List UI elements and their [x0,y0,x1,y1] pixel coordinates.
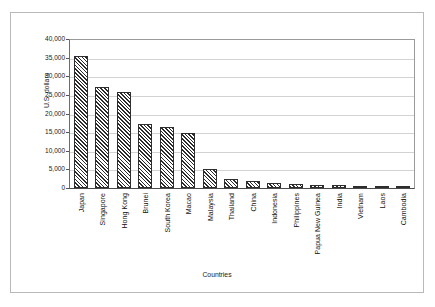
y-axis-tick-label: 5,000 [11,165,65,172]
x-axis-tick-label: Laos [378,193,385,208]
x-axis-label-slot: China [242,191,264,283]
y-axis-tick-label: 25,000 [11,91,65,98]
bar-slot [181,39,195,188]
y-axis-tick-label: 40,000 [11,35,65,42]
x-axis-label-slot: Papua New Guinea [307,191,329,283]
bar [138,124,152,188]
bar-series [70,39,414,188]
bar-slot [332,39,346,188]
x-axis-label-slot: Indonesia [264,191,286,283]
bar-slot [203,39,217,188]
bar-slot [138,39,152,188]
y-axis-tick-label: 15,000 [11,128,65,135]
x-axis-label-slot: Laos [371,191,393,283]
bar-slot [224,39,238,188]
x-axis-label-slot: South Korea [156,191,178,283]
bar [160,127,174,188]
x-axis-label-slot: India [328,191,350,283]
bar [353,186,367,188]
bar [224,179,238,188]
y-axis-tick-label: 30,000 [11,72,65,79]
bar [332,185,346,188]
x-axis-label-slot: Malaysia [199,191,221,283]
bar-slot [246,39,260,188]
y-axis-tick-label: 35,000 [11,54,65,61]
bar-slot [353,39,367,188]
x-axis-tick-label: China [249,193,256,212]
x-axis-label-slot: Thailand [221,191,243,283]
y-axis-title: U.S. dollars [43,46,50,136]
x-axis-label-slot: Singapore [92,191,114,283]
x-axis-tick-label: Macao [185,193,192,214]
y-axis-tick-label: 10,000 [11,147,65,154]
x-axis-label-slot: Vietnam [350,191,372,283]
x-axis-label-slot: Macao [178,191,200,283]
chart-frame: U.S. dollars 40,00035,00030,00025,00020,… [10,12,424,293]
x-axis-tick-label: India [335,193,342,208]
bar [310,185,324,188]
x-axis-tick-label: Philippines [292,193,299,227]
y-axis-tick-label: 0 [11,184,65,191]
x-axis-label-slot: Hong Kong [113,191,135,283]
bar [95,87,109,188]
bar-slot [289,39,303,188]
bar-slot [396,39,410,188]
bar-slot [267,39,281,188]
bar-slot [160,39,174,188]
x-axis-label-slot: Philippines [285,191,307,283]
bar [246,181,260,188]
bar-slot [74,39,88,188]
x-axis-label-slot: Brunei [135,191,157,283]
x-axis-tick-label: Brunei [142,193,149,214]
bar [267,183,281,188]
y-axis-tick-label: 20,000 [11,110,65,117]
bar-slot [310,39,324,188]
bar [74,56,88,188]
bar-slot [375,39,389,188]
x-axis-tick-label: Singapore [99,193,106,225]
x-axis-tick-label: Malaysia [206,193,213,221]
x-axis-tick-label: Hong Kong [120,193,127,228]
x-axis-tick-label: Papua New Guinea [314,193,321,255]
x-axis-tick-labels: JapanSingaporeHong KongBruneiSouth Korea… [70,191,414,283]
x-axis-tick-label: Cambodia [400,193,407,225]
x-axis-title: Countries [11,271,423,278]
bar [181,133,195,188]
x-axis-tick-label: Thailand [228,193,235,220]
x-axis-label-slot: Cambodia [393,191,415,283]
x-axis-label-slot: Japan [70,191,92,283]
x-axis-tick-label: South Korea [163,193,170,232]
bar [203,169,217,188]
x-axis-tick-label: Japan [77,193,84,212]
bar [117,92,131,188]
x-axis-tick-label: Indonesia [271,193,278,224]
x-axis-tick-label: Vietnam [357,193,364,219]
bar-slot [117,39,131,188]
bar [289,184,303,188]
bar-slot [95,39,109,188]
bar [375,186,389,188]
bar [396,186,410,188]
